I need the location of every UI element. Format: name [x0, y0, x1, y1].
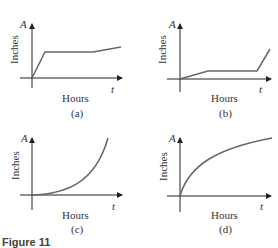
y-axis-symbol: A: [169, 132, 176, 144]
curve-a: [32, 47, 121, 78]
x-axis-label: Hours: [211, 92, 238, 104]
curve-b: [180, 49, 270, 79]
chart-panel-c: A Inches t Hours (c): [0, 124, 139, 236]
panel-caption: (d): [219, 223, 232, 235]
panel-caption: (a): [71, 107, 83, 119]
y-axis-symbol: A: [169, 18, 176, 30]
y-axis-label: Inches: [8, 35, 20, 64]
x-axis-symbol: t: [259, 83, 262, 95]
x-axis-label: Hours: [211, 209, 238, 221]
figure-caption: Figure 11: [2, 236, 50, 248]
y-axis-symbol: A: [20, 18, 27, 30]
curve-c: [32, 138, 108, 195]
x-axis-label: Hours: [62, 209, 89, 221]
x-axis-symbol: t: [111, 83, 114, 95]
panel-caption: (c): [71, 223, 83, 235]
x-axis-symbol: t: [260, 200, 263, 212]
panel-caption: (b): [219, 107, 232, 119]
curve-d: [180, 138, 272, 196]
y-axis-label: Inches: [157, 152, 169, 181]
x-axis-label: Hours: [62, 92, 89, 104]
y-axis-symbol: A: [21, 132, 28, 144]
x-axis-symbol: t: [112, 200, 115, 212]
chart-panel-b: A Inches t Hours (b): [139, 0, 278, 112]
y-axis-label: Inches: [156, 35, 168, 64]
chart-panel-d: A Inches t Hours (d): [139, 124, 278, 236]
chart-panel-a: A Inches t Hours (a): [0, 0, 139, 112]
y-axis-label: Inches: [9, 151, 21, 180]
